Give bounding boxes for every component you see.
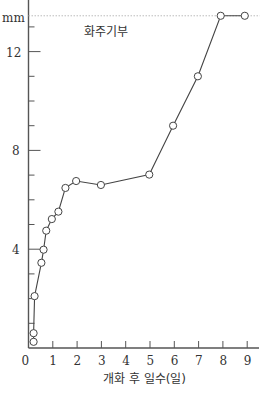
line-chart: 01234567894812 mm 화주기부 개화 후 일수(일) [0,0,266,396]
data-point-marker [73,177,80,184]
annotation-label: 화주기부 [84,25,128,39]
data-point-marker [55,208,62,215]
data-point-marker [169,122,176,129]
data-point-marker [194,73,201,80]
x-tick-label: 2 [74,354,82,368]
data-point-marker [40,246,47,253]
data-point-marker [217,12,224,19]
y-tick-label: 4 [12,243,20,257]
data-point-marker [30,330,37,337]
x-tick-label: 4 [122,354,130,368]
x-tick-label: 9 [244,354,252,368]
x-tick-label: 5 [147,354,155,368]
x-tick-label: 8 [219,354,227,368]
y-axis-unit: mm [2,11,25,25]
data-point-marker [97,181,104,188]
axis-ticks: 01234567894812 [6,27,251,368]
y-tick-label: 12 [6,46,21,60]
x-tick-label: 6 [171,354,179,368]
series-line [34,16,245,342]
x-tick-label: 7 [195,354,203,368]
x-tick-label: 1 [49,354,57,368]
y-tick-label: 8 [12,144,20,158]
data-point-marker [48,215,55,222]
x-axis-title: 개화 후 일수(일) [103,372,186,386]
data-point-marker [62,184,69,191]
x-tick-label: 0 [22,354,30,368]
data-point-marker [241,12,248,19]
data-series [30,12,248,345]
axes [29,0,260,348]
data-point-marker [31,293,38,300]
data-point-marker [43,227,50,234]
data-point-marker [38,259,45,266]
data-point-marker [146,171,153,178]
data-point-marker [30,338,37,345]
x-tick-label: 3 [98,354,106,368]
